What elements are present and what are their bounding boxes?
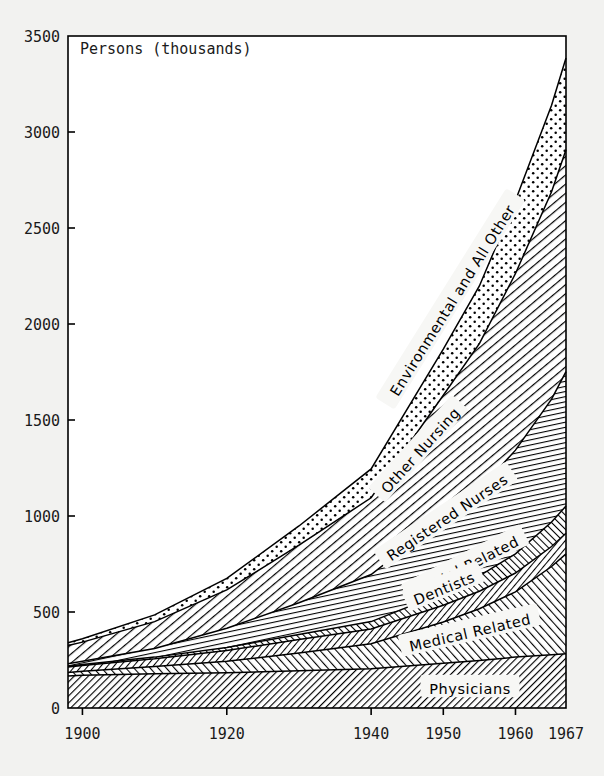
x-tick-label: 1900 bbox=[64, 725, 100, 743]
y-tick-label: 3500 bbox=[24, 28, 60, 46]
y-tick-label: 3000 bbox=[24, 124, 60, 142]
y-tick-label: 1500 bbox=[24, 412, 60, 430]
band-label-text: Physicians bbox=[429, 681, 511, 697]
y-tick-label: 2500 bbox=[24, 220, 60, 238]
y-tick-label: 500 bbox=[33, 604, 60, 622]
y-tick-label: 0 bbox=[51, 700, 60, 718]
y-tick-label: 1000 bbox=[24, 508, 60, 526]
x-tick-label: 1920 bbox=[209, 725, 245, 743]
y-tick-label: 2000 bbox=[24, 316, 60, 334]
x-tick-label: 1960 bbox=[497, 725, 533, 743]
x-tick-label: 1950 bbox=[425, 725, 461, 743]
x-tick-label: 1967 bbox=[548, 725, 584, 743]
stacked-area-chart: 0500100015002000250030003500 19001920194… bbox=[0, 0, 604, 776]
band-label-physicians: Physicians bbox=[421, 675, 520, 698]
plot-title: Persons (thousands) bbox=[80, 40, 252, 58]
x-tick-label: 1940 bbox=[353, 725, 389, 743]
